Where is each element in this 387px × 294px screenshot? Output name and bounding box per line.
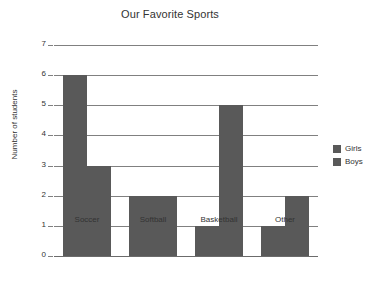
y-tick-mark [48, 105, 53, 106]
gridline: 4 [54, 135, 318, 136]
gridline: 0 [54, 256, 318, 257]
bar [87, 166, 111, 256]
gridline: 5 [54, 105, 318, 106]
y-axis-title: Number of students [10, 80, 19, 170]
y-tick-mark [48, 166, 53, 167]
gridline: 6 [54, 75, 318, 76]
y-tick-label: 5 [26, 99, 46, 108]
legend-swatch-icon [333, 145, 341, 153]
y-tick-mark [48, 45, 53, 46]
y-tick-mark [48, 226, 53, 227]
plot-area: 01234567 [54, 45, 318, 256]
y-tick-label: 4 [26, 129, 46, 138]
bar [153, 196, 177, 256]
y-tick-mark [48, 256, 53, 257]
bar [129, 196, 153, 256]
y-tick-label: 0 [26, 250, 46, 259]
y-tick-mark [48, 75, 53, 76]
bar [195, 226, 219, 256]
bar [63, 75, 87, 256]
y-tick-label: 7 [26, 39, 46, 48]
legend-item: Boys [333, 155, 363, 168]
x-axis-label: Soccer [54, 215, 120, 224]
x-axis-label: Basketball [186, 215, 252, 224]
chart-legend: GirlsBoys [333, 142, 363, 168]
bar [261, 226, 285, 256]
y-tick-label: 2 [26, 190, 46, 199]
gridline: 7 [54, 45, 318, 46]
y-tick-label: 3 [26, 160, 46, 169]
chart-title: Our Favorite Sports [0, 8, 340, 20]
y-tick-mark [48, 196, 53, 197]
y-tick-mark [48, 135, 53, 136]
x-axis-label: Softball [120, 215, 186, 224]
y-tick-label: 1 [26, 220, 46, 229]
bar [285, 196, 309, 256]
bar [219, 105, 243, 256]
legend-label: Boys [345, 157, 363, 166]
x-axis-label: Other [252, 215, 318, 224]
bar-chart: Our Favorite Sports Number of students 0… [0, 0, 387, 294]
legend-swatch-icon [333, 158, 341, 166]
legend-item: Girls [333, 142, 363, 155]
y-tick-label: 6 [26, 69, 46, 78]
legend-label: Girls [345, 144, 361, 153]
